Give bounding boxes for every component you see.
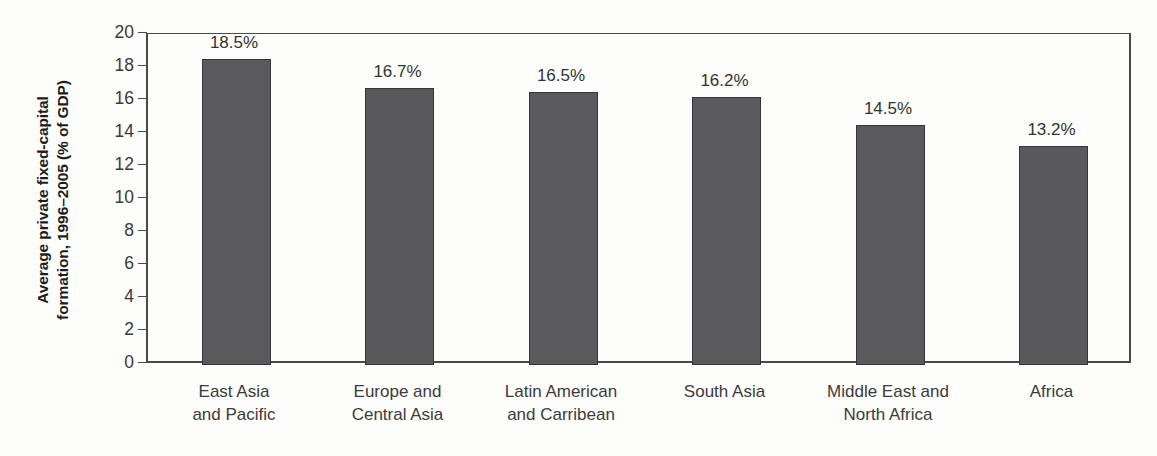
y-axis-tick-label-12: 12 <box>104 156 134 174</box>
bar <box>529 92 598 365</box>
y-axis-title-line-2: formation, 1996–2005 (% of GDP) <box>53 80 73 320</box>
bar <box>856 125 925 365</box>
bar-value-label: 14.5% <box>828 100 948 117</box>
x-axis-category-label-line: Latin American <box>466 381 656 404</box>
bar-value-label: 18.5% <box>174 34 294 51</box>
y-axis-tick-label-10: 10 <box>104 189 134 207</box>
y-axis-tick-label-8: 8 <box>104 222 134 240</box>
bar <box>365 88 434 365</box>
bar-value-label: 16.7% <box>338 63 458 80</box>
x-axis-category-label-line: Middle East and <box>793 381 983 404</box>
y-axis-tick-label-18: 18 <box>104 57 134 75</box>
x-axis-category-label-line: Central Asia <box>303 404 493 427</box>
x-axis-category-label-line: Africa <box>957 381 1147 404</box>
x-axis-category-label: East Asiaand Pacific <box>139 381 329 426</box>
x-axis-category-label-line: and Pacific <box>139 404 329 427</box>
bar <box>202 59 271 365</box>
x-axis-category-label: Middle East andNorth Africa <box>793 381 983 426</box>
bar-value-label: 16.2% <box>665 72 785 89</box>
x-axis-category-label: Europe andCentral Asia <box>303 381 493 426</box>
y-axis-tick-labels: 20181614121086420 <box>100 0 134 456</box>
bar-value-label: 16.5% <box>501 67 621 84</box>
chart-page: Average private fixed-capital formation,… <box>0 0 1157 456</box>
plot-area <box>146 33 1131 363</box>
x-axis-category-label: South Asia <box>630 381 820 404</box>
y-axis-tick-label-20: 20 <box>104 24 134 42</box>
y-axis-tick-label-16: 16 <box>104 90 134 108</box>
y-axis-tick-label-6: 6 <box>104 255 134 273</box>
x-axis-category-label-line: South Asia <box>630 381 820 404</box>
bar <box>1019 146 1088 365</box>
x-axis-category-label-line: North Africa <box>793 404 983 427</box>
x-axis-category-label: Latin Americanand Carribean <box>466 381 656 426</box>
y-axis-title-line-1: Average private fixed-capital <box>32 80 52 320</box>
y-axis-tick-label-4: 4 <box>104 288 134 306</box>
x-axis-category-label-line: and Carribean <box>466 404 656 427</box>
y-axis-tick-label-2: 2 <box>104 321 134 339</box>
y-axis-tick-label-0: 0 <box>104 354 134 372</box>
bar <box>692 97 761 365</box>
y-axis-title: Average private fixed-capital formation,… <box>0 0 105 400</box>
x-axis-category-label-line: East Asia <box>139 381 329 404</box>
bar-value-label: 13.2% <box>992 121 1112 138</box>
x-axis-category-label: Africa <box>957 381 1147 404</box>
x-axis-category-label-line: Europe and <box>303 381 493 404</box>
y-axis-tick-label-14: 14 <box>104 123 134 141</box>
